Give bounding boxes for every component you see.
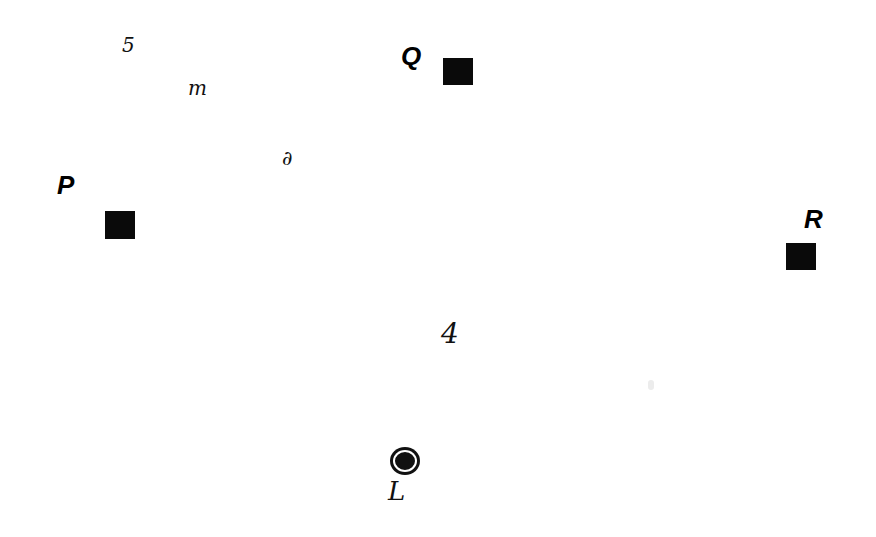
handwritten-mark-l: L bbox=[388, 478, 405, 504]
point-label-r: R bbox=[804, 206, 823, 232]
handwritten-mark-m: m bbox=[188, 78, 207, 98]
handwritten-mark-4: 4 bbox=[441, 320, 459, 348]
point-square-r bbox=[786, 243, 816, 270]
point-label-p: P bbox=[57, 172, 74, 198]
handwritten-mark-5: 5 bbox=[122, 35, 135, 55]
point-square-q bbox=[443, 58, 473, 85]
point-label-q: Q bbox=[401, 43, 421, 69]
point-square-p bbox=[105, 211, 135, 239]
scan-speck bbox=[648, 380, 654, 390]
handwritten-mark-curl: ∂ bbox=[282, 148, 292, 168]
circle-marker-icon bbox=[393, 450, 417, 472]
